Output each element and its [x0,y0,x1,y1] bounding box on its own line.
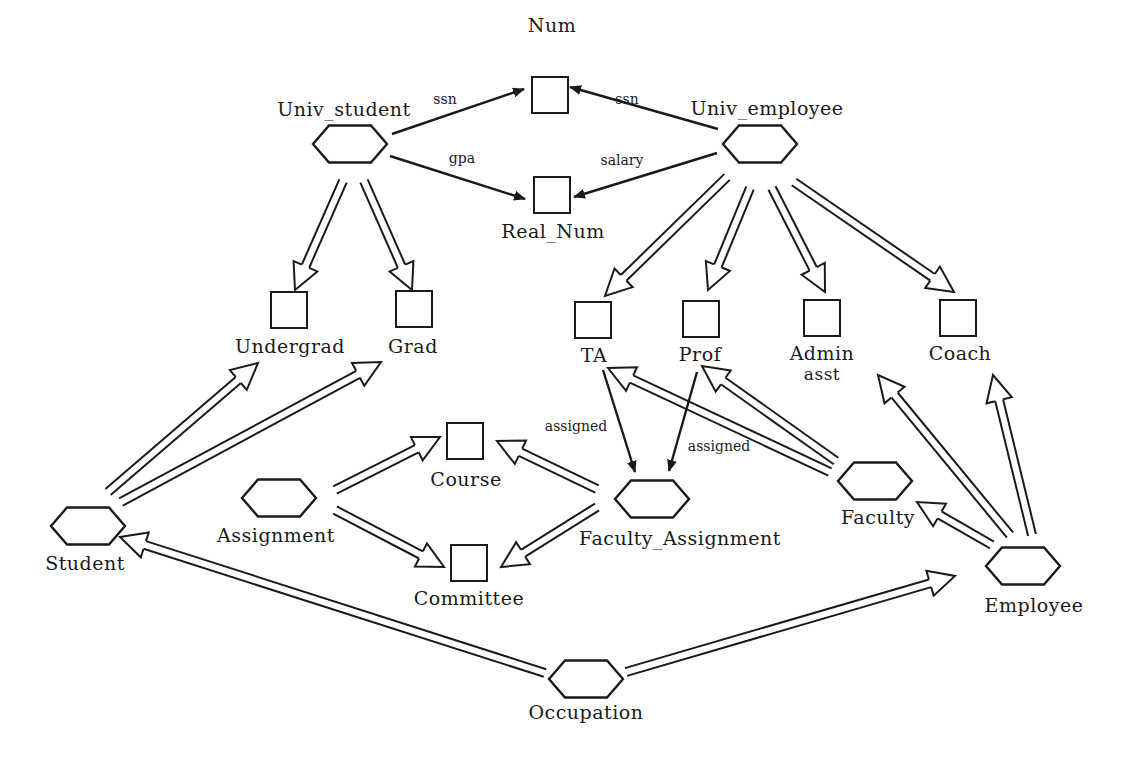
grad-node [396,291,432,327]
node-label-line2: asst [804,364,840,384]
isa-arrow [625,571,955,676]
node-label: Occupation [529,701,644,723]
entity-square-icon [575,302,611,338]
node-label: Undergrad [235,335,345,357]
node-label: Prof [679,343,723,365]
node-label: Employee [985,594,1084,616]
undergrad-node [271,292,307,328]
occupation-node [549,661,623,698]
univ-employee-node [723,126,797,163]
nodes-layer [51,77,1060,698]
isa-arrow [333,506,444,567]
attribute-edge [574,153,717,197]
edge-label: salary [601,152,644,168]
relationship-hexagon-icon [838,463,912,500]
admin-asst-node [804,300,840,336]
assignment-node [242,480,316,517]
relationship-hexagon-icon [986,548,1060,585]
node-label: Committee [414,587,524,609]
edge-label: ssn [615,91,638,107]
coach-node [940,300,976,336]
prof-node [683,301,719,337]
node-label: Admin [789,342,855,364]
attribute-edge [669,372,697,471]
isa-arrow [294,179,347,290]
isa-arrow [987,375,1036,536]
entity-relationship-diagram: ssngpassnsalaryassignedassignedNumReal_N… [0,0,1132,766]
node-label: Real_Num [501,220,604,243]
entity-square-icon [683,301,719,337]
entity-square-icon [804,300,840,336]
isa-arrow [360,179,413,290]
entity-square-icon [532,77,568,113]
node-label: Univ_employee [690,97,843,120]
node-label: Coach [929,342,992,364]
entity-square-icon [534,177,570,213]
isa-arrow [105,363,258,495]
node-label: TA [581,344,607,366]
edge-label: ssn [433,91,456,107]
isa-arrow [497,441,599,493]
node-label: Course [430,468,501,490]
edge-label: assigned [688,438,750,454]
edges-layer [105,87,1035,677]
relationship-hexagon-icon [549,661,623,698]
employee-node [986,548,1060,585]
faculty-assignment-node [615,481,689,518]
labels-layer: ssngpassnsalaryassignedassignedNumReal_N… [45,14,1083,723]
node-label: Faculty_Assignment [579,527,781,550]
entity-square-icon [396,291,432,327]
real-num-node [534,177,570,213]
relationship-hexagon-icon [723,126,797,163]
node-label: Faculty [841,506,915,528]
entity-square-icon [447,423,483,459]
course-node [447,423,483,459]
entity-square-icon [940,300,976,336]
student-node [51,508,125,545]
ta-node [575,302,611,338]
committee-node [451,545,487,581]
edge-label: assigned [545,418,607,434]
relationship-hexagon-icon [313,126,387,163]
node-label: Num [528,14,576,36]
node-label: Grad [388,335,438,357]
num-node [532,77,568,113]
relationship-hexagon-icon [615,481,689,518]
relationship-hexagon-icon [51,508,125,545]
node-label: Assignment [216,524,335,546]
isa-arrow [706,186,754,290]
node-label: Univ_student [277,98,410,121]
entity-square-icon [451,545,487,581]
er-diagram-canvas: ssngpassnsalaryassignedassignedNumReal_N… [0,0,1132,766]
node-label: Student [45,552,125,574]
univ-student-node [313,126,387,163]
attribute-edge [392,89,524,134]
faculty-node [838,463,912,500]
isa-arrow [333,437,440,494]
edge-label: gpa [449,150,475,166]
entity-square-icon [271,292,307,328]
relationship-hexagon-icon [242,480,316,517]
attribute-edge [603,370,635,472]
